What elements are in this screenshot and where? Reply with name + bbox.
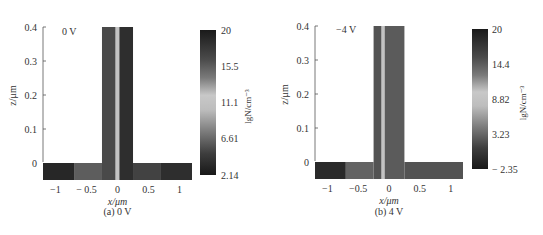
- heatmap-region-substrate-right-outer: [161, 163, 192, 180]
- heatmap-region-fin-left: [102, 27, 116, 180]
- heatmap-region-fin-right: [385, 26, 405, 179]
- y-tick-label: 0: [304, 157, 309, 168]
- x-tick-label: 1: [177, 184, 182, 195]
- colorbar-tick-label: 8.82: [492, 94, 510, 105]
- y-axis-label: z/μm: [279, 84, 290, 105]
- panel-a: 00.10.20.30.4−1− 0.500.51x/μmz/μm0 V(a) …: [7, 22, 253, 219]
- voltage-annotation: 0 V: [62, 26, 77, 37]
- colorbar: [472, 29, 488, 169]
- x-tick-label: 0.5: [142, 184, 155, 195]
- heatmap-region-substrate-right-inner: [133, 163, 161, 180]
- colorbar-tick-label: 14.4: [492, 59, 510, 70]
- figure: 00.10.20.30.4−1− 0.500.51x/μmz/μm0 V(a) …: [0, 0, 543, 235]
- panel-caption: (b) 4 V: [375, 206, 404, 218]
- y-tick-label: 0.2: [297, 89, 310, 100]
- colorbar: [200, 30, 216, 175]
- y-tick-label: 0.4: [25, 22, 38, 33]
- colorbar-label: lgN/cm⁻³: [518, 85, 528, 120]
- y-axis-label: z/μm: [7, 85, 18, 106]
- colorbar-tick-label: 2.14: [221, 170, 239, 181]
- x-tick-label: 1: [448, 183, 453, 194]
- x-axis-label: x/μm: [378, 195, 398, 206]
- voltage-annotation: −4 V: [336, 24, 357, 35]
- heatmap-region-substrate-left-inner: [74, 163, 102, 180]
- y-tick-label: 0.3: [297, 55, 310, 66]
- y-tick-label: 0: [32, 158, 37, 169]
- heatmap-region-fin-center: [382, 26, 385, 179]
- x-tick-label: 0: [387, 183, 392, 194]
- colorbar-tick-label: 20: [492, 24, 502, 35]
- colorbar-tick-label: 3.23: [492, 129, 510, 140]
- heatmap-region-substrate-left-inner: [346, 162, 374, 179]
- heatmap-region-substrate-right: [404, 162, 463, 179]
- x-tick-label: 0.5: [414, 183, 427, 194]
- colorbar-tick-label: 20: [221, 25, 231, 36]
- panel-b: 00.10.20.30.4−1−0.500.51x/μmz/μm−4 V(b) …: [279, 21, 528, 219]
- y-tick-label: 0.2: [25, 90, 38, 101]
- heatmap-region-substrate-left-outer: [315, 162, 346, 179]
- x-tick-label: − 0.5: [76, 184, 97, 195]
- heatmap-region-fin-center: [116, 27, 120, 180]
- panel-caption: (a) 0 V: [103, 206, 132, 218]
- y-tick-label: 0.1: [25, 124, 38, 135]
- heatmap-region-fin-left: [374, 26, 382, 179]
- colorbar-tick-label: − 2.35: [492, 164, 518, 175]
- x-tick-label: −1: [322, 183, 333, 194]
- y-tick-label: 0.1: [297, 123, 310, 134]
- colorbar-tick-label: 6.61: [221, 133, 239, 144]
- colorbar-label: lgN/cm⁻³: [243, 89, 253, 124]
- y-tick-label: 0.4: [297, 21, 310, 32]
- heatmap-region-substrate-left-outer: [43, 163, 74, 180]
- colorbar-tick-label: 11.1: [221, 97, 238, 108]
- heatmap-region-fin-right: [119, 27, 133, 180]
- x-tick-label: −1: [50, 184, 61, 195]
- colorbar-tick-label: 15.5: [221, 61, 239, 72]
- x-tick-label: −0.5: [349, 183, 367, 194]
- x-tick-label: 0: [115, 184, 120, 195]
- y-tick-label: 0.3: [25, 56, 38, 67]
